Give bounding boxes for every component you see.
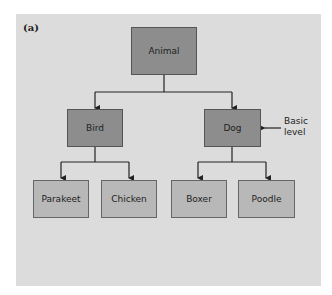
- node-label: Dog: [223, 123, 241, 133]
- node-animal: Animal: [131, 27, 197, 75]
- node-label: Animal: [148, 46, 179, 56]
- node-label: Chicken: [111, 194, 147, 204]
- node-label: Parakeet: [41, 194, 80, 204]
- node-label: Boxer: [186, 194, 212, 204]
- node-poodle: Poodle: [238, 180, 295, 218]
- basic-level-annotation: Basic level: [284, 116, 308, 138]
- node-label: Bird: [86, 123, 104, 133]
- node-boxer: Boxer: [171, 180, 227, 218]
- node-chicken: Chicken: [101, 180, 157, 218]
- annotation-line2: level: [284, 127, 308, 138]
- node-dog: Dog: [204, 109, 261, 147]
- node-label: Poodle: [252, 194, 282, 204]
- annotation-line1: Basic: [284, 116, 308, 127]
- node-bird: Bird: [67, 109, 123, 147]
- node-parakeet: Parakeet: [33, 180, 89, 218]
